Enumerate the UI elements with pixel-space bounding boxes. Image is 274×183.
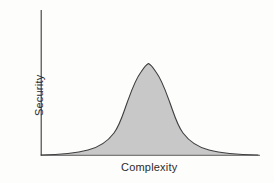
chart-figure: Security Complexity xyxy=(0,0,274,183)
y-axis-label: Security xyxy=(34,75,45,116)
curve-area-fill xyxy=(41,64,258,156)
x-axis-label: Complexity xyxy=(121,162,177,173)
